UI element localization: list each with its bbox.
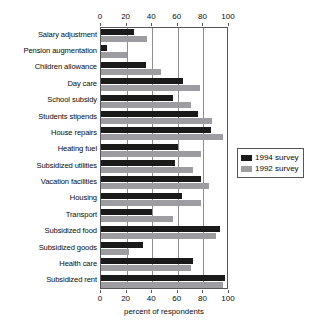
x-tick-label: 0 (98, 12, 102, 22)
bar-chart: 020406080100 Salary adjustmentPension au… (0, 0, 318, 331)
bar-1992 (101, 36, 147, 42)
category-label: Subsidized rent (0, 276, 97, 284)
x-tick-mark (126, 23, 127, 26)
y-axis-category-labels: Salary adjustmentPension augmentationChi… (0, 27, 97, 289)
legend-item[interactable]: 1992 survey (241, 163, 299, 174)
bar-group (101, 44, 229, 60)
x-tick-mark (177, 290, 178, 293)
bar-1992 (101, 167, 193, 173)
x-tick-mark (100, 23, 101, 26)
bar-1994 (101, 144, 178, 150)
bar-group (101, 241, 229, 257)
category-label: Students stipends (0, 113, 97, 121)
category-label: Subsidized food (0, 227, 97, 235)
chart-legend: 1994 survey1992 survey (237, 148, 304, 178)
bar-group (101, 110, 229, 126)
bar-1994 (101, 127, 211, 133)
bar-1994 (101, 275, 225, 281)
bar-group (101, 61, 229, 77)
bar-1992 (101, 151, 201, 157)
category-label: Housing (0, 194, 97, 202)
plot-area (100, 27, 228, 289)
category-label: Subsidized goods (0, 244, 97, 252)
x-tick-mark (202, 290, 203, 293)
bar-1992 (101, 282, 223, 288)
bar-1992 (101, 233, 216, 239)
bar-group (101, 208, 229, 224)
category-label: School subsidy (0, 96, 97, 104)
legend-swatch-icon (241, 155, 252, 161)
bar-1994 (101, 78, 183, 84)
bar-1992 (101, 249, 129, 255)
bar-1994 (101, 95, 173, 101)
bar-1994 (101, 209, 152, 215)
bar-group (101, 175, 229, 191)
bar-1992 (101, 69, 161, 75)
bar-group (101, 159, 229, 175)
category-label: Children allowance (0, 63, 97, 71)
bar-1992 (101, 265, 191, 271)
legend-label: 1994 survey (255, 153, 299, 162)
category-label: Subsidized utilities (0, 162, 97, 170)
x-tick-mark (100, 290, 101, 293)
category-label: Salary adjustment (0, 31, 97, 39)
bar-1992 (101, 52, 127, 58)
x-tick-mark (228, 290, 229, 293)
x-tick-label: 100 (221, 12, 234, 22)
bar-group (101, 94, 229, 110)
bar-group (101, 126, 229, 142)
bar-group (101, 77, 229, 93)
x-tick-label: 0 (98, 294, 102, 304)
bar-group (101, 192, 229, 208)
x-tick-mark (202, 23, 203, 26)
bar-1994 (101, 160, 175, 166)
category-label: Health care (0, 260, 97, 268)
bar-group (101, 143, 229, 159)
bar-1992 (101, 216, 173, 222)
category-label: House repairs (0, 129, 97, 137)
bar-1994 (101, 258, 193, 264)
x-tick-mark (151, 23, 152, 26)
bar-1994 (101, 176, 201, 182)
category-label: Day care (0, 80, 97, 88)
bar-group (101, 28, 229, 44)
x-tick-label: 40 (147, 294, 156, 304)
x-tick-label: 60 (172, 294, 181, 304)
bar-1994 (101, 62, 146, 68)
bar-1994 (101, 193, 182, 199)
bar-1992 (101, 102, 191, 108)
x-tick-label: 80 (198, 294, 207, 304)
bar-1994 (101, 242, 143, 248)
category-label: Vacation facilities (0, 178, 97, 186)
x-tick-mark (151, 290, 152, 293)
x-axis-top: 020406080100 (100, 12, 228, 26)
bar-1992 (101, 183, 209, 189)
x-axis-bottom: 020406080100 (100, 290, 228, 304)
bar-1992 (101, 118, 212, 124)
bar-1992 (101, 85, 200, 91)
x-tick-label: 80 (198, 12, 207, 22)
x-tick-label: 20 (121, 12, 130, 22)
legend-item[interactable]: 1994 survey (241, 152, 299, 163)
legend-label: 1992 survey (255, 164, 299, 173)
category-label: Transport (0, 211, 97, 219)
bar-group (101, 225, 229, 241)
category-label: Heating fuel (0, 145, 97, 153)
x-tick-label: 60 (172, 12, 181, 22)
x-tick-label: 20 (121, 294, 130, 304)
bar-1994 (101, 29, 134, 35)
bar-1992 (101, 134, 223, 140)
bar-1994 (101, 111, 198, 117)
x-axis-title: percent of respondents (100, 307, 228, 316)
bar-1992 (101, 200, 201, 206)
bar-group (101, 274, 229, 290)
x-tick-mark (177, 23, 178, 26)
x-tick-mark (126, 290, 127, 293)
legend-swatch-icon (241, 166, 252, 172)
bar-1994 (101, 45, 107, 51)
x-tick-label: 100 (221, 294, 234, 304)
x-tick-mark (228, 23, 229, 26)
bar-1994 (101, 226, 220, 232)
x-tick-label: 40 (147, 12, 156, 22)
category-label: Pension augmentation (0, 47, 97, 55)
